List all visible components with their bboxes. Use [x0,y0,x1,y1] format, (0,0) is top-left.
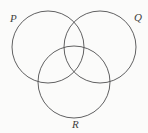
set-label-p: P [10,13,17,24]
venn-diagram-figure: P Q R [0,0,148,133]
circle-set-p [12,11,84,83]
circle-set-q [64,11,136,83]
venn-diagram-canvas [0,0,148,133]
circle-set-r [38,46,110,118]
set-label-q: Q [134,12,142,23]
set-label-r: R [72,119,79,130]
